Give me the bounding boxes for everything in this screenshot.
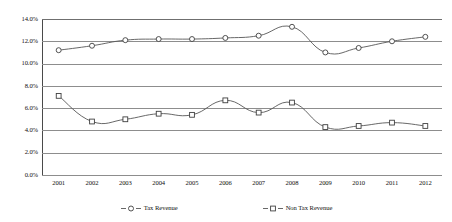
x-axis-tick-label: 2005 [186, 180, 199, 187]
data-point-marker [323, 50, 328, 55]
y-axis-tick-label: 6.0% [0, 105, 38, 112]
y-axis-tick-label: 10.0% [0, 60, 38, 67]
y-axis-tick-label: 0.0% [0, 172, 38, 179]
x-axis-tick-label: 2011 [386, 180, 399, 187]
legend-label: Tax Revenue [144, 205, 178, 212]
y-axis-tick-label: 14.0% [0, 16, 38, 23]
data-point-marker [390, 120, 395, 125]
legend-marker-circle-icon [120, 204, 142, 213]
y-axis-tick-label: 4.0% [0, 127, 38, 134]
data-point-marker [356, 45, 361, 50]
series-layer [42, 19, 442, 175]
data-point-marker [323, 125, 328, 130]
x-axis-tick-label: 2010 [352, 180, 365, 187]
data-point-marker [56, 93, 61, 98]
legend-label: Non Tax Revenue [286, 205, 333, 212]
y-axis-tick-label: 8.0% [0, 83, 38, 90]
y-axis-tick-label: 2.0% [0, 149, 38, 156]
y-axis-tick-label: 12.0% [0, 38, 38, 45]
data-point-marker [156, 111, 161, 116]
data-point-marker [223, 35, 228, 40]
legend-item[interactable]: Tax Revenue [120, 204, 178, 213]
x-axis-tick-label: 2008 [286, 180, 299, 187]
x-axis-tick-label: 2007 [252, 180, 265, 187]
data-point-marker [256, 110, 261, 115]
chart-legend: Tax RevenueNon Tax Revenue [0, 200, 452, 216]
data-point-marker [123, 117, 128, 122]
data-point-marker [56, 48, 61, 53]
gridline [42, 175, 442, 176]
x-axis-tick-label: 2001 [52, 180, 65, 187]
series-line-non-tax-revenue [59, 96, 426, 129]
data-point-marker [190, 37, 195, 42]
x-axis-tick-label: 2002 [86, 180, 99, 187]
data-point-marker [290, 24, 295, 29]
data-point-marker [223, 98, 228, 103]
data-point-marker [423, 124, 428, 129]
x-axis-tick-labels: 2001200220032004200520062007200820092010… [42, 180, 442, 194]
x-axis-tick-label: 2009 [319, 180, 332, 187]
x-axis-tick-label: 2003 [119, 180, 132, 187]
legend-marker-square-icon [262, 204, 284, 213]
data-point-marker [390, 39, 395, 44]
data-point-marker [256, 33, 261, 38]
data-point-marker [123, 38, 128, 43]
x-axis-tick-label: 2004 [152, 180, 165, 187]
data-point-marker [156, 37, 161, 42]
data-point-marker [423, 34, 428, 39]
data-point-marker [356, 124, 361, 129]
data-point-marker [190, 112, 195, 117]
series-line-tax-revenue [59, 26, 426, 54]
data-point-marker [90, 43, 95, 48]
legend-item[interactable]: Non Tax Revenue [262, 204, 333, 213]
x-axis-tick-label: 2006 [219, 180, 232, 187]
x-axis-tick-label: 2012 [419, 180, 432, 187]
data-point-marker [90, 119, 95, 124]
line-chart: 14.0%12.0%10.0%8.0%6.0%4.0%2.0%0.0% 2001… [0, 0, 452, 222]
data-point-marker [290, 100, 295, 105]
